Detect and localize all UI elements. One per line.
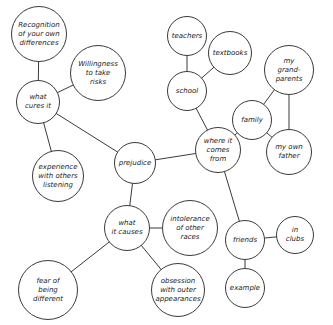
node-experience: experience with others listening (32, 150, 84, 202)
node-label: in clubs (286, 226, 304, 244)
node-label: what cures it (25, 93, 51, 111)
node-label: friends (233, 236, 257, 245)
node-fear: fear of being different (18, 260, 78, 320)
node-label: where it comes from (204, 137, 233, 164)
node-label: my own father (275, 143, 303, 161)
node-label: intolerance of other races (170, 215, 209, 242)
node-label: obsession with outer appearances (155, 277, 200, 304)
node-intolerance: intolerance of other races (162, 200, 218, 256)
node-textbooks: textbooks (208, 31, 252, 75)
node-example: example (225, 268, 265, 308)
node-my-grandparents: my grand- parents (264, 45, 314, 95)
node-label: prejudice (119, 159, 152, 168)
node-label: school (176, 87, 198, 96)
node-label: Recognition of your own differences (18, 21, 60, 48)
concept-map-canvas: Recognition of your own differencesWilli… (0, 0, 333, 325)
node-label: what it causes (111, 219, 142, 237)
node-label: fear of being different (33, 277, 63, 304)
node-obsession: obsession with outer appearances (151, 263, 205, 317)
node-label: example (230, 284, 260, 293)
node-label: family (241, 116, 263, 125)
node-friends: friends (225, 220, 265, 260)
node-label: Willingness to take risks (78, 60, 118, 87)
node-school: school (167, 71, 207, 111)
node-my-own-father: my own father (266, 129, 312, 175)
node-what-it-causes: what it causes (104, 205, 150, 251)
node-willingness: Willingness to take risks (70, 45, 126, 101)
node-in-clubs: in clubs (276, 216, 314, 254)
node-teachers: teachers (167, 16, 207, 56)
node-label: experience with others listening (38, 163, 77, 190)
node-family: family (232, 100, 272, 140)
node-recognition: Recognition of your own differences (11, 6, 67, 62)
node-label: my grand- parents (276, 57, 303, 84)
node-prejudice: prejudice (114, 142, 156, 184)
node-label: teachers (172, 32, 202, 41)
node-label: textbooks (213, 49, 248, 58)
node-what-cures-it: what cures it (16, 80, 60, 124)
node-where-it-comes-from: where it comes from (195, 127, 241, 173)
